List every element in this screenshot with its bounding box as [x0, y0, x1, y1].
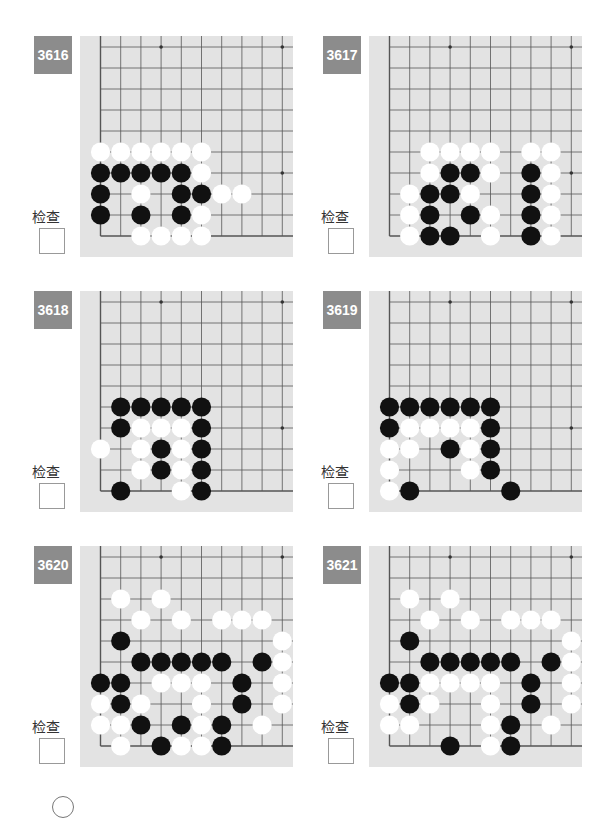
white-stone — [481, 142, 500, 161]
check-label: 检查 — [32, 206, 60, 226]
white-stone — [192, 205, 211, 224]
white-stone — [420, 142, 439, 161]
white-stone — [273, 673, 292, 692]
white-stone — [420, 418, 439, 437]
black-stone — [441, 439, 460, 458]
black-stone — [152, 736, 171, 755]
black-stone — [420, 397, 439, 416]
black-stone — [461, 652, 480, 671]
problem-number-badge: 3620 — [34, 546, 72, 584]
black-stone — [400, 694, 419, 713]
white-stone — [131, 142, 150, 161]
black-stone — [91, 673, 110, 692]
white-stone — [253, 610, 272, 629]
white-stone — [461, 418, 480, 437]
black-stone — [501, 736, 520, 755]
white-stone — [192, 163, 211, 182]
black-stone — [152, 439, 171, 458]
white-stone — [192, 142, 211, 161]
black-stone — [152, 397, 171, 416]
black-stone — [481, 652, 500, 671]
check-box[interactable] — [39, 483, 65, 509]
star-point — [448, 555, 452, 559]
black-stone — [400, 481, 419, 500]
black-stone — [152, 163, 171, 182]
black-stone — [91, 205, 110, 224]
black-stone — [192, 418, 211, 437]
white-stone — [542, 142, 561, 161]
white-stone — [152, 142, 171, 161]
black-stone — [380, 397, 399, 416]
go-board — [80, 546, 293, 767]
check-label: 检查 — [321, 716, 349, 736]
white-stone — [562, 673, 581, 692]
star-point — [570, 555, 574, 559]
check-box[interactable] — [328, 483, 354, 509]
problem-panel-3620: 3620 检查 — [34, 546, 294, 771]
star-point — [159, 45, 163, 49]
black-stone — [172, 397, 191, 416]
black-stone — [521, 226, 540, 245]
white-stone — [192, 736, 211, 755]
star-point — [281, 300, 285, 304]
problem-panel-3616: 3616 检查 — [34, 36, 294, 261]
black-stone — [212, 652, 231, 671]
star-point — [570, 426, 574, 430]
white-stone — [273, 652, 292, 671]
black-stone — [111, 631, 130, 650]
star-point — [281, 171, 285, 175]
black-stone — [172, 205, 191, 224]
black-stone — [232, 694, 251, 713]
white-stone — [461, 142, 480, 161]
white-stone — [400, 418, 419, 437]
check-box[interactable] — [328, 228, 354, 254]
star-point — [448, 45, 452, 49]
white-stone — [111, 142, 130, 161]
star-point — [448, 300, 452, 304]
white-stone — [131, 226, 150, 245]
white-stone — [441, 418, 460, 437]
black-stone — [441, 226, 460, 245]
star-point — [570, 171, 574, 175]
star-point — [159, 300, 163, 304]
white-stone — [172, 142, 191, 161]
white-stone — [481, 694, 500, 713]
black-stone — [111, 397, 130, 416]
check-label: 检查 — [321, 461, 349, 481]
white-stone — [192, 715, 211, 734]
black-stone — [172, 652, 191, 671]
white-stone — [172, 460, 191, 479]
black-stone — [461, 397, 480, 416]
white-stone — [380, 715, 399, 734]
black-stone — [400, 673, 419, 692]
white-stone — [253, 715, 272, 734]
black-stone — [192, 184, 211, 203]
white-stone — [232, 610, 251, 629]
black-stone — [441, 736, 460, 755]
white-stone — [172, 226, 191, 245]
white-stone — [192, 226, 211, 245]
white-stone — [212, 610, 231, 629]
white-stone — [172, 418, 191, 437]
white-stone — [152, 673, 171, 692]
black-stone — [521, 673, 540, 692]
white-stone — [380, 694, 399, 713]
black-stone — [172, 715, 191, 734]
white-stone — [542, 163, 561, 182]
black-stone — [212, 715, 231, 734]
check-box[interactable] — [328, 738, 354, 764]
black-stone — [501, 715, 520, 734]
white-stone — [172, 673, 191, 692]
black-stone — [131, 652, 150, 671]
black-stone — [441, 163, 460, 182]
problem-panel-3619: 3619 检查 — [323, 291, 583, 516]
check-box[interactable] — [39, 738, 65, 764]
black-stone — [192, 397, 211, 416]
white-stone — [521, 610, 540, 629]
black-stone — [111, 481, 130, 500]
black-stone — [420, 652, 439, 671]
black-stone — [192, 652, 211, 671]
check-box[interactable] — [39, 228, 65, 254]
white-stone — [562, 631, 581, 650]
star-point — [281, 45, 285, 49]
